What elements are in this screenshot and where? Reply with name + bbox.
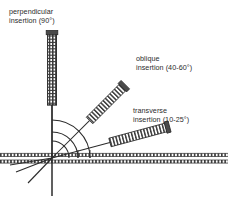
oblique-needle-handle	[86, 84, 126, 124]
perpendicular-needle-handle	[47, 33, 56, 105]
insertion-rays	[10, 100, 52, 196]
label-transverse-line2: insertion (10-25°)	[133, 115, 189, 124]
label-perpendicular-line1: perpendicular	[9, 7, 55, 16]
needle-insertion-angle-diagram: perpendicular insertion (90°) oblique in…	[0, 0, 230, 201]
skin-layers	[0, 153, 228, 163]
label-transverse-insertion: transverse insertion (10-25°)	[133, 106, 189, 124]
label-perpendicular-line2: insertion (90°)	[9, 16, 55, 25]
label-oblique-line2: insertion (40-60°)	[136, 63, 192, 72]
transverse-needle-handle	[109, 123, 167, 147]
diagram-canvas	[0, 0, 230, 201]
label-oblique-line1: oblique	[136, 54, 192, 63]
label-transverse-line1: transverse	[133, 106, 189, 115]
label-oblique-insertion: oblique insertion (40-60°)	[136, 54, 192, 72]
perpendicular-needle	[46, 31, 58, 159]
perpendicular-needle-cap	[46, 31, 58, 35]
oblique-needle-shaft	[52, 121, 89, 158]
skin-layer-upper	[0, 153, 228, 156]
label-perpendicular-insertion: perpendicular insertion (90°)	[9, 7, 55, 25]
